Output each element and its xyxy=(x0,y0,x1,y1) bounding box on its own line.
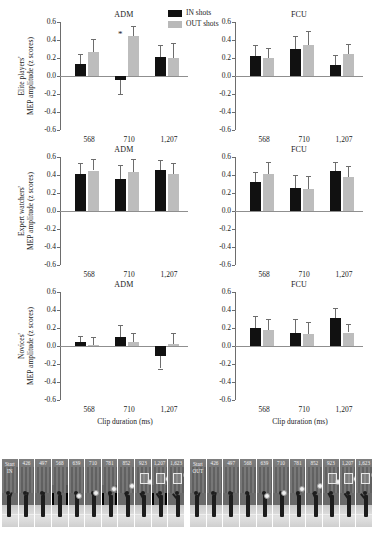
y-axis-caption: Elite players'MEP amplitude (z scores) xyxy=(18,22,35,130)
y-tick-label: -0.4 xyxy=(205,108,231,116)
x-tick-label: 710 xyxy=(109,270,149,279)
error-bar-cap xyxy=(158,369,163,370)
y-tick xyxy=(232,94,235,95)
player-arm xyxy=(360,493,367,500)
basketball-icon xyxy=(281,490,287,496)
y-tick xyxy=(57,193,60,194)
bar-in-shots xyxy=(330,171,341,212)
player-arm xyxy=(25,492,29,500)
bar-out-shots xyxy=(128,36,139,76)
x-tick-label: 568 xyxy=(69,135,109,144)
player-figure xyxy=(92,495,96,517)
error-bar xyxy=(308,176,309,190)
error-bar-cap xyxy=(158,45,163,46)
frame-crowd xyxy=(69,467,85,493)
y-tick xyxy=(232,130,235,131)
y-tick xyxy=(232,265,235,266)
x-axis-caption: Clip duration (ms) xyxy=(235,417,365,426)
player-arm xyxy=(172,493,179,500)
error-bar-cap xyxy=(91,337,96,338)
y-tick xyxy=(57,130,60,131)
player-figure xyxy=(195,495,199,517)
error-bar xyxy=(348,166,349,177)
player-figure xyxy=(41,495,45,517)
filmstrip-frame-label: 781 xyxy=(102,460,118,466)
basketball-icon xyxy=(264,493,270,499)
error-bar-cap xyxy=(78,336,83,337)
error-bar xyxy=(80,163,81,174)
bar-out-shots xyxy=(343,177,354,211)
y-tick-label: 0.2 xyxy=(205,54,231,62)
player-arm xyxy=(156,493,162,501)
error-bar-cap xyxy=(78,54,83,55)
bar-group xyxy=(287,292,321,400)
y-tick xyxy=(57,265,60,266)
error-bar xyxy=(348,324,349,332)
bar-out-shots xyxy=(88,171,99,212)
player-figure xyxy=(314,495,318,517)
bar-out-shots xyxy=(343,54,354,76)
error-bar xyxy=(160,160,161,170)
y-tick xyxy=(232,328,235,329)
bar-in-shots xyxy=(115,179,126,211)
filmstrip-frame: 781 xyxy=(102,459,118,527)
filmstrip-frame: 639 xyxy=(257,459,273,527)
y-tick xyxy=(57,112,60,113)
y-tick-label: 0.4 xyxy=(205,171,231,179)
filmstrip-frame-label: 781 xyxy=(290,460,306,466)
player-figure xyxy=(364,495,368,517)
error-bar-cap xyxy=(171,43,176,44)
filmstrip-frame-label: 1,207 xyxy=(340,460,356,466)
bar-out-shots xyxy=(263,58,274,76)
error-bar-cap xyxy=(333,55,338,56)
filmstrip-frame: 1,207 xyxy=(340,459,356,527)
bar-out-shots xyxy=(343,333,354,347)
bar-group xyxy=(247,22,281,130)
bar-group xyxy=(152,22,186,130)
x-tick-label: 568 xyxy=(244,270,284,279)
x-tick-label: 568 xyxy=(69,405,109,414)
error-bar xyxy=(308,31,309,45)
frame-crowd xyxy=(223,467,239,493)
player-arm xyxy=(296,492,300,500)
y-tick xyxy=(232,22,235,23)
bar-in-shots xyxy=(75,64,86,76)
y-axis-caption-measure: MEP amplitude (z scores) xyxy=(27,292,36,400)
hoop-icon xyxy=(344,473,353,484)
bar-in-shots xyxy=(250,56,261,76)
error-bar-cap xyxy=(131,333,136,334)
y-tick xyxy=(232,175,235,176)
player-figure xyxy=(280,495,284,517)
bar-out-shots xyxy=(168,58,179,76)
frame-crowd xyxy=(207,467,223,493)
frame-crowd xyxy=(19,467,35,493)
y-tick xyxy=(57,292,60,293)
player-arm xyxy=(108,492,112,500)
bar-in-shots xyxy=(155,346,166,356)
error-bar xyxy=(255,172,256,182)
frame-crowd xyxy=(240,467,256,493)
bar-group xyxy=(247,157,281,265)
error-bar xyxy=(268,48,269,58)
bar-group xyxy=(247,292,281,400)
bar-group xyxy=(112,157,146,265)
y-tick xyxy=(57,40,60,41)
bar-in-shots xyxy=(155,170,166,211)
y-tick xyxy=(232,40,235,41)
player-arm xyxy=(124,492,129,500)
x-tick-label: 568 xyxy=(244,135,284,144)
filmstrip-start-label: StartIN xyxy=(2,461,18,474)
error-bar-cap xyxy=(266,319,271,320)
y-tick-label: 0.0 xyxy=(205,342,231,350)
error-bar-cap xyxy=(306,176,311,177)
y-tick-label: 0.4 xyxy=(205,36,231,44)
error-bar-cap xyxy=(346,324,351,325)
error-bar-cap xyxy=(306,31,311,32)
error-bar-cap xyxy=(131,159,136,160)
hoop-icon xyxy=(140,473,149,484)
error-bar xyxy=(173,333,174,344)
filmstrip-frame: 1,623 xyxy=(168,459,184,527)
error-bar xyxy=(93,159,94,171)
frame-crowd xyxy=(306,467,322,493)
player-figure xyxy=(159,495,163,517)
